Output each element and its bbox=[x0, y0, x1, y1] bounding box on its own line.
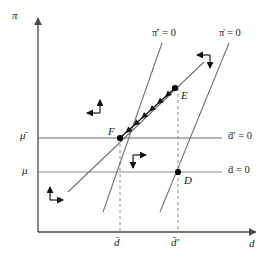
curve-label-d-dot: ḋ = 0 bbox=[228, 165, 250, 176]
point-marker-F bbox=[117, 135, 123, 141]
phase-diagram-figure: π d μ̄ μ d̄ d̄′ π̇′ = 0 π̇ = 0 ḋ′ = 0 d… bbox=[0, 0, 275, 271]
y-tick-mu-bar: μ̄ bbox=[20, 130, 26, 141]
x-tick-d-bar-prime: d̄′ bbox=[171, 237, 179, 248]
direction-cross-upper-left bbox=[87, 100, 100, 113]
point-label-D: D bbox=[184, 175, 192, 186]
saddle-path bbox=[120, 88, 175, 138]
direction-cross-upper-right bbox=[197, 55, 210, 68]
point-label-F: F bbox=[108, 126, 115, 137]
x-axis-label: d bbox=[249, 238, 255, 249]
x-tick-d-bar: d̄ bbox=[114, 237, 120, 248]
point-marker-E bbox=[172, 85, 178, 91]
curve-label-pi-dot-prime: π̇′ = 0 bbox=[152, 28, 176, 39]
direction-cross-lower-left bbox=[50, 187, 63, 200]
equilibrium-points bbox=[117, 85, 181, 175]
direction-cross-middle bbox=[133, 155, 146, 168]
y-axis-label: π bbox=[12, 10, 18, 21]
curve-label-d-dot-prime: ḋ′ = 0 bbox=[228, 131, 252, 142]
curve-label-pi-dot: π̇ = 0 bbox=[219, 28, 241, 39]
point-label-E: E bbox=[181, 90, 188, 101]
y-tick-mu: μ bbox=[22, 165, 28, 176]
locus-pi-dot bbox=[160, 43, 229, 212]
point-marker-D bbox=[175, 169, 181, 175]
dashed-guide-lines bbox=[120, 88, 178, 232]
